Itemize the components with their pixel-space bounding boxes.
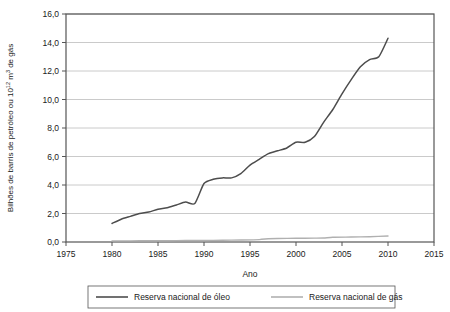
y-axis-title: Bilhões de barris de petróleo ou 1012 m3… [5,44,15,212]
y-tick-label: 8,0 [47,123,59,133]
y-tick-label: 12,0 [42,66,59,76]
line-chart: 0,02,04,06,08,010,012,014,016,0 19751980… [0,0,450,312]
x-tick-label: 1980 [103,249,122,259]
x-tick-label: 1990 [195,249,214,259]
y-axis-title-part-3: de gás [6,44,15,70]
y-tick-label: 4,0 [47,180,59,190]
x-tick-label: 2015 [425,249,444,259]
x-axis-tick-labels: 197519801985199019952000200520102015 [57,249,444,259]
x-axis-title: Ano [242,269,257,279]
x-tick-label: 1995 [241,249,260,259]
y-tick-label: 6,0 [47,152,59,162]
chart-container: 0,02,04,06,08,010,012,014,016,0 19751980… [0,0,450,312]
y-tick-label: 10,0 [42,95,59,105]
x-tick-label: 1975 [57,249,76,259]
x-tick-label: 2005 [333,249,352,259]
y-axis-title-part-2: m [6,73,15,82]
y-axis-title-part-1: Bilhões de barris de petróleo ou 10 [6,88,15,213]
chart-background [0,0,450,312]
legend-label-oil: Reserva nacional de óleo [134,292,230,302]
y-tick-label: 2,0 [47,209,59,219]
x-tick-label: 1985 [149,249,168,259]
y-tick-label: 14,0 [42,38,59,48]
y-tick-label: 0,0 [47,237,59,247]
y-tick-label: 16,0 [42,9,59,19]
legend-label-gas: Reserva nacional de gás [309,292,403,302]
x-tick-label: 2010 [379,249,398,259]
svg-text:Bilhões de barris de petróleo: Bilhões de barris de petróleo ou 1012 m3… [5,44,15,212]
x-tick-label: 2000 [287,249,306,259]
chart-legend: Reserva nacional de óleo Reserva naciona… [88,286,403,308]
